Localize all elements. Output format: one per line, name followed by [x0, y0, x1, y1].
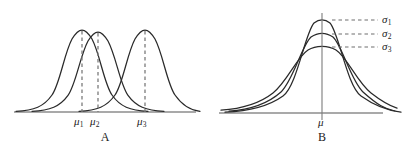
panel-a-caption: A [98, 131, 112, 143]
panel-a-tick-label-mu3: μ3 [137, 116, 146, 127]
panel-b-sigma-label-1: σ1 [382, 14, 391, 25]
panel-b-curve-sigma1 [225, 20, 401, 112]
panel-a-tick-label-mu2: μ2 [90, 116, 99, 127]
panel-a-tick-label-mu1: μ1 [74, 116, 83, 127]
panel-b-tick-label-mu: μ [318, 117, 324, 128]
panel-b-caption: B [315, 131, 329, 143]
panel-b-sigma-label-3: σ3 [382, 41, 391, 52]
panel-a-curve-3 [79, 30, 200, 111]
panel-b-plot [205, 0, 410, 150]
panel-b-curve-sigma2 [229, 33, 395, 111]
normal-distribution-figure: μ1 μ2 μ3 A σ1 [0, 0, 410, 150]
panel-b-curve-sigma3 [221, 46, 397, 110]
panel-a: μ1 μ2 μ3 A [0, 0, 205, 150]
panel-b: σ1 σ2 σ3 μ B [205, 0, 410, 150]
panel-b-sigma-label-2: σ2 [382, 28, 391, 39]
panel-a-plot [0, 0, 205, 150]
